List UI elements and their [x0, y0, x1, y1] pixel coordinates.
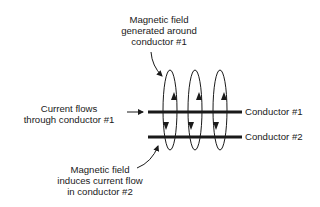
label-top-line-2: generated around	[113, 25, 205, 36]
label-bottom-line-3: in conductor #2	[50, 186, 150, 197]
label-left-line-1: Current flows	[15, 103, 123, 114]
label-top: Magnetic field generated around conducto…	[113, 14, 205, 47]
label-left: Current flows through conductor #1	[15, 103, 123, 125]
label-bottom: Magnetic field induces current flow in c…	[50, 164, 150, 197]
label-bottom-line-2: induces current flow	[50, 175, 150, 186]
label-top-line-1: Magnetic field	[113, 14, 205, 25]
label-bottom-line-1: Magnetic field	[50, 164, 150, 175]
label-conductor-1: Conductor #1	[245, 106, 303, 117]
label-conductor-2: Conductor #2	[245, 131, 303, 142]
label-left-line-2: through conductor #1	[15, 114, 123, 125]
label-top-line-3: conductor #1	[113, 36, 205, 47]
top-pointer-arrow	[151, 52, 162, 76]
